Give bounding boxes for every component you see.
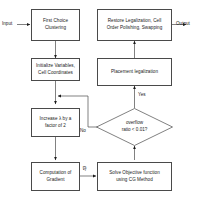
- node-placement-legalization-label: Placement legalization: [111, 69, 158, 76]
- node-first-choice-clustering-label: First Choice Clustering: [43, 18, 68, 31]
- node-initialize-variables[interactable]: Initialize Variables, Cell Coordinates: [31, 58, 80, 81]
- input-label: Input: [2, 21, 12, 27]
- node-text-line-1: Restore Legalization, Cell: [107, 18, 163, 25]
- output-label: Output: [176, 21, 190, 27]
- edge-label-yes: Yes: [138, 92, 146, 98]
- node-restore-legalization-label: Restore Legalization, Cell Order Polishi…: [107, 18, 163, 31]
- node-text-line-1: Initialize Variables,: [36, 63, 75, 70]
- node-restore-legalization[interactable]: Restore Legalization, Cell Order Polishi…: [97, 9, 172, 41]
- edge-label-gradient: ∇f: [82, 166, 86, 172]
- node-first-choice-clustering[interactable]: First Choice Clustering: [31, 9, 80, 41]
- node-text-line-2: Clustering: [43, 25, 68, 32]
- node-overflow-decision[interactable]: overflow ratio < 0.01?: [96, 108, 173, 146]
- node-increase-lambda-label: Increase λ by a factor of 2: [40, 116, 72, 129]
- node-text-line-2: Cell Coordinates: [36, 70, 75, 77]
- node-text-line-2: using CG Method: [109, 177, 159, 184]
- node-solve-objective-function-label: Solve Objective function using CG Method: [109, 170, 159, 183]
- node-text-line-2: Order Polishing, Swapping: [107, 25, 163, 32]
- node-text-line-1: Solve Objective function: [109, 170, 159, 177]
- edge-label-no: No: [80, 128, 86, 134]
- node-text-line-1: Increase λ by a: [40, 116, 72, 123]
- decision-diamond-shape: [96, 108, 173, 146]
- node-text-line-1: First Choice: [43, 18, 68, 25]
- node-text-line-2: factor of 2: [40, 123, 72, 130]
- node-text-line-1: Computation of: [40, 170, 72, 177]
- node-computation-of-gradient-label: Computation of Gradient: [40, 170, 72, 183]
- node-text-line-2: Gradient: [40, 177, 72, 184]
- node-computation-of-gradient[interactable]: Computation of Gradient: [31, 162, 80, 191]
- node-solve-objective-function[interactable]: Solve Objective function using CG Method: [97, 162, 172, 191]
- node-initialize-variables-label: Initialize Variables, Cell Coordinates: [36, 63, 75, 76]
- node-increase-lambda[interactable]: Increase λ by a factor of 2: [31, 108, 80, 137]
- flowchart-diagram: Input Output First Choice Clustering Res…: [0, 0, 202, 203]
- node-placement-legalization[interactable]: Placement legalization: [97, 58, 172, 86]
- node-text-line-1: Placement legalization: [111, 69, 158, 76]
